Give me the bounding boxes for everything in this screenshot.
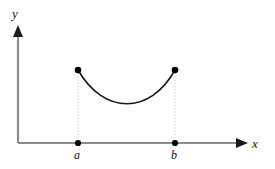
x-axis-arrow-icon <box>236 138 248 148</box>
y-axis-label: y <box>12 7 18 20</box>
axis-point-b <box>172 140 178 146</box>
axis-point-a <box>75 140 81 146</box>
curve-point-a <box>75 67 82 74</box>
curve-point-b <box>172 67 179 74</box>
x-tick-label-a: a <box>74 149 80 161</box>
math-figure: y x a b <box>0 0 275 169</box>
figure-canvas <box>0 0 275 169</box>
y-axis-arrow-icon <box>13 25 23 37</box>
curve-path <box>78 70 175 104</box>
x-tick-label-b: b <box>171 149 177 161</box>
x-axis-label: x <box>252 137 258 150</box>
